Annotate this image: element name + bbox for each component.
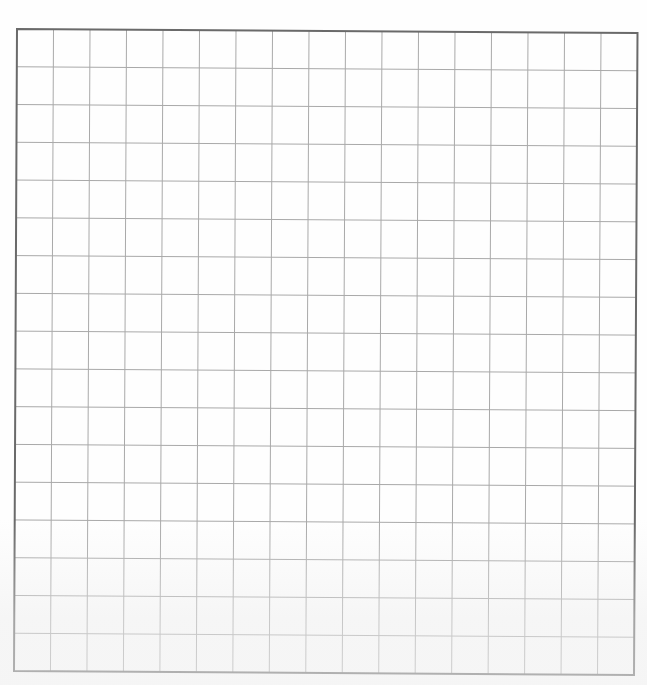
horizontal-grid-line <box>15 482 635 486</box>
horizontal-grid-line <box>15 558 635 562</box>
vertical-grid-line <box>269 31 272 673</box>
vertical-grid-line <box>306 31 309 673</box>
vertical-grid-line <box>598 33 601 675</box>
horizontal-grid-line <box>15 444 635 448</box>
grid-border <box>14 29 638 675</box>
graph-paper-page <box>0 0 647 685</box>
horizontal-grid-line <box>14 595 634 599</box>
vertical-grid-line <box>50 29 53 671</box>
horizontal-grid-line <box>14 633 634 637</box>
horizontal-grid-line <box>15 520 635 524</box>
horizontal-grid-line <box>16 331 636 335</box>
horizontal-grid-line <box>16 180 636 184</box>
vertical-grid-line <box>561 33 564 675</box>
vertical-grid-line <box>196 30 199 672</box>
grid-sheet <box>0 0 647 685</box>
horizontal-grid-line <box>16 256 636 260</box>
horizontal-grid-line <box>16 218 636 222</box>
vertical-grid-line <box>233 30 236 672</box>
vertical-grid-line <box>415 32 418 674</box>
vertical-grid-line <box>160 30 163 672</box>
vertical-grid-line <box>379 31 382 673</box>
vertical-grid-line <box>525 32 528 674</box>
vertical-grid-line <box>342 31 345 673</box>
vertical-grid-line <box>452 32 455 674</box>
horizontal-grid-line <box>15 407 635 411</box>
vertical-grid-line <box>488 32 491 674</box>
horizontal-grid-line <box>17 67 637 71</box>
vertical-grid-line <box>87 29 90 671</box>
vertical-grid-line <box>123 30 126 672</box>
horizontal-grid-line <box>17 105 637 109</box>
grid-lines <box>14 29 637 675</box>
horizontal-grid-line <box>15 369 635 373</box>
horizontal-grid-line <box>16 142 636 146</box>
horizontal-grid-line <box>16 293 636 297</box>
